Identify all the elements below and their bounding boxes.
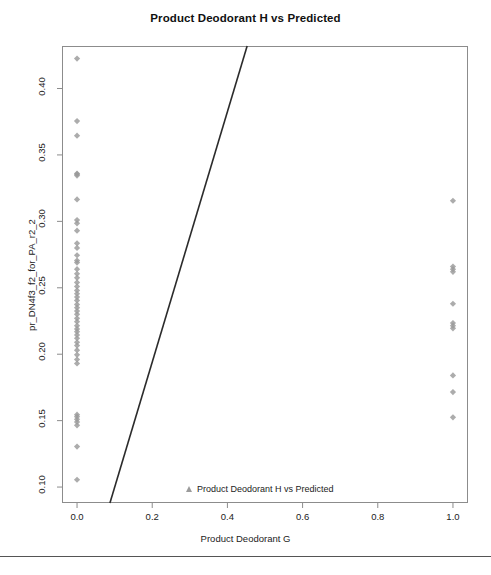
x-tick-label: 0.6 bbox=[283, 511, 323, 522]
x-tick-label: 1.0 bbox=[433, 511, 473, 522]
y-tick-label: 0.15 bbox=[28, 413, 54, 424]
x-axis-title: Product Deodorant G bbox=[0, 533, 491, 544]
legend-label: Product Deodorant H vs Predicted bbox=[197, 484, 334, 494]
y-tick-label: 0.35 bbox=[28, 147, 54, 158]
chart-legend: Product Deodorant H vs Predicted bbox=[186, 484, 334, 494]
footer-subtext bbox=[0, 562, 491, 575]
chart-root: Product Deodorant H vs Predicted 0.100.1… bbox=[0, 0, 491, 575]
y-tick-label: 0.10 bbox=[28, 479, 54, 490]
plot-area bbox=[62, 46, 468, 503]
x-tick-label: 0.8 bbox=[358, 511, 398, 522]
y-tick-label: 0.40 bbox=[28, 81, 54, 92]
x-tick-label: 0.4 bbox=[207, 511, 247, 522]
chart-title: Product Deodorant H vs Predicted bbox=[0, 12, 491, 24]
y-axis-title: pr_DN4f3_f2_for_PA_r2_2 bbox=[26, 219, 37, 331]
y-tick-label: 0.20 bbox=[28, 346, 54, 357]
legend-triangle-icon bbox=[186, 486, 192, 492]
x-tick-label: 0.0 bbox=[57, 511, 97, 522]
x-tick-label: 0.2 bbox=[132, 511, 172, 522]
footer-divider bbox=[0, 556, 491, 557]
